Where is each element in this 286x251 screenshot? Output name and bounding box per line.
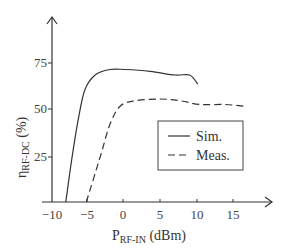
legend-item-meas: Meas. [196,148,230,163]
y-ticks: 75 50 25 [34,55,52,164]
chart: 75 50 25 −10 −5 0 5 10 15 PRF-IN (dBm) η… [0,0,286,251]
x-tick-label: 5 [157,207,164,222]
x-tick-label: 0 [120,207,127,222]
y-tick-label: 25 [34,149,47,164]
y-axis-label: ηRF-DC (%) [14,116,31,178]
x-axis-label: PRF-IN (dBm) [112,228,186,245]
x-tick-label: −10 [42,207,62,222]
legend: Sim. Meas. [158,121,243,170]
y-tick-label: 75 [34,55,47,70]
legend-item-sim: Sim. [196,129,222,144]
y-tick-label: 50 [34,101,47,116]
x-tick-label: 15 [227,207,240,222]
x-tick-label: −5 [80,207,94,222]
x-tick-label: 10 [191,207,204,222]
